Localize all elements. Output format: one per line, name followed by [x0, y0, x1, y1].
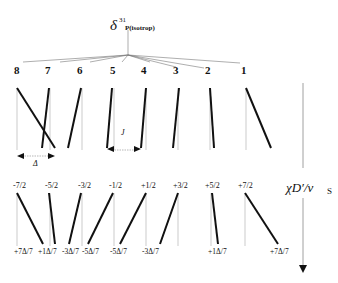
peak-number: 1: [241, 64, 247, 76]
shift-label: -5Δ/7: [110, 247, 127, 256]
title-subscript: P(isotrop): [125, 24, 155, 32]
axis-arrow: χD′/ν S: [284, 83, 332, 273]
j-label: J: [121, 128, 125, 137]
peak-number: 8: [14, 64, 20, 76]
transition-label: +5/2: [205, 181, 220, 190]
title: δ 31 P(isotrop): [110, 16, 155, 33]
peak-number: 6: [77, 64, 83, 76]
peak-number: 2: [205, 64, 211, 76]
fan-lines: [23, 30, 240, 68]
transition-label: +1/2: [141, 181, 156, 190]
peak-numbers: 8 7 6 5 4 3 2 1: [14, 64, 247, 76]
transition-labels: -7/2 -5/2 -3/2 -1/2 +1/2 +3/2 +5/2 +7/2: [13, 181, 253, 190]
shift-label: +1Δ/7: [38, 247, 57, 256]
lower-lines: [17, 193, 278, 244]
shift-label: +7Δ/7: [14, 247, 33, 256]
upper-lines: [17, 88, 271, 148]
arrow-down-icon: [299, 265, 307, 273]
shift-label: -3Δ/7: [142, 247, 159, 256]
nmr-splitting-diagram: δ 31 P(isotrop) 8 7 6 5 4 3 2 1: [0, 0, 338, 283]
shift-labels: +7Δ/7 +1Δ/7 -3Δ/7 -5Δ/7 -5Δ/7 -3Δ/7 +1Δ/…: [14, 247, 289, 256]
transition-label: +3/2: [173, 181, 188, 190]
shift-label: -3Δ/7: [62, 247, 79, 256]
title-symbol: δ: [110, 17, 118, 33]
shift-label: -5Δ/7: [82, 247, 99, 256]
peak-number: 7: [45, 64, 51, 76]
j-arrow: J: [107, 128, 141, 152]
transition-label: -5/2: [45, 181, 58, 190]
transition-label: +7/2: [238, 181, 253, 190]
transition-label: -1/2: [109, 181, 122, 190]
delta-arrow: Δ: [17, 153, 55, 168]
transition-label: -3/2: [78, 181, 91, 190]
axis-label-subscript: S: [327, 186, 332, 196]
peak-number: 5: [110, 64, 116, 76]
delta-label: Δ: [32, 159, 38, 168]
shift-label: +7Δ/7: [270, 247, 289, 256]
title-superscript: 31: [119, 16, 127, 24]
peak-number: 4: [141, 64, 147, 76]
axis-label: χD′/ν: [284, 180, 314, 195]
peak-number: 3: [173, 64, 179, 76]
transition-label: -7/2: [13, 181, 26, 190]
shift-label: +1Δ/7: [208, 247, 227, 256]
